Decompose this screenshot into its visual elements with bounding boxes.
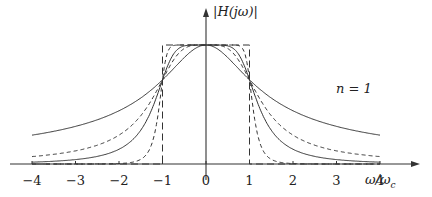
- x-tick-label: −3: [66, 173, 85, 188]
- x-tick-label: −4: [22, 173, 41, 188]
- x-tick-label: 0: [202, 173, 210, 188]
- x-tick-label: −2: [109, 173, 128, 188]
- x-axis-arrow-icon: [411, 161, 420, 167]
- x-tick-label: 4: [376, 173, 384, 188]
- x-tick-label: 2: [289, 173, 297, 188]
- butterworth-plot: [0, 0, 432, 197]
- x-tick-label: 3: [332, 173, 340, 188]
- x-axis-label-sub: c: [391, 180, 396, 190]
- x-tick-label: −1: [153, 173, 172, 188]
- y-axis-label: |H(jω)|: [213, 4, 258, 19]
- curve-annotation-n1: n = 1: [336, 81, 372, 96]
- x-tick-label: 1: [245, 173, 253, 188]
- y-axis-arrow-icon: [203, 8, 209, 17]
